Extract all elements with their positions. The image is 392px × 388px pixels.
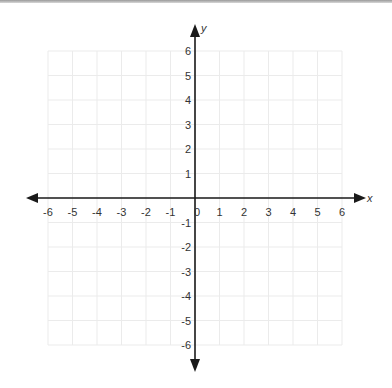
x-tick-label: -6 bbox=[43, 206, 53, 218]
x-tick-label: 0 bbox=[194, 206, 200, 218]
x-tick-label: 4 bbox=[290, 206, 296, 218]
x-tick-label: -5 bbox=[68, 206, 78, 218]
y-axis-down-arrow-icon bbox=[190, 359, 200, 372]
y-tick-label: 1 bbox=[185, 168, 191, 180]
x-tick-label: 2 bbox=[241, 206, 247, 218]
x-axis-label: x bbox=[366, 192, 373, 204]
y-tick-label: -2 bbox=[181, 241, 191, 253]
y-tick-label: 2 bbox=[185, 143, 191, 155]
x-axis-left-arrow-icon bbox=[26, 193, 38, 203]
axes bbox=[26, 24, 366, 372]
y-tick-label: -4 bbox=[181, 290, 191, 302]
y-tick-label: -6 bbox=[181, 339, 191, 351]
x-tick-label: 6 bbox=[339, 206, 345, 218]
x-tick-label: 3 bbox=[265, 206, 271, 218]
y-tick-label: -5 bbox=[181, 315, 191, 327]
coordinate-plane: x y -6-5-4-3-2-10123456 654321-1-2-3-4-5… bbox=[0, 0, 392, 388]
x-tick-label: -3 bbox=[117, 206, 127, 218]
y-axis-label: y bbox=[200, 22, 208, 34]
x-tick-labels: -6-5-4-3-2-10123456 bbox=[43, 206, 345, 218]
x-axis-right-arrow-icon bbox=[354, 193, 366, 203]
x-tick-label: -4 bbox=[92, 206, 102, 218]
y-tick-label: -3 bbox=[181, 266, 191, 278]
y-tick-label: 4 bbox=[185, 94, 191, 106]
y-tick-label: 3 bbox=[185, 119, 191, 131]
y-tick-label: 6 bbox=[185, 45, 191, 57]
x-tick-label: 1 bbox=[216, 206, 222, 218]
x-tick-label: 5 bbox=[314, 206, 320, 218]
x-tick-label: -2 bbox=[141, 206, 151, 218]
y-tick-label: -1 bbox=[181, 217, 191, 229]
y-axis-up-arrow-icon bbox=[190, 24, 200, 37]
y-tick-label: 5 bbox=[185, 70, 191, 82]
x-tick-label: -1 bbox=[166, 206, 176, 218]
